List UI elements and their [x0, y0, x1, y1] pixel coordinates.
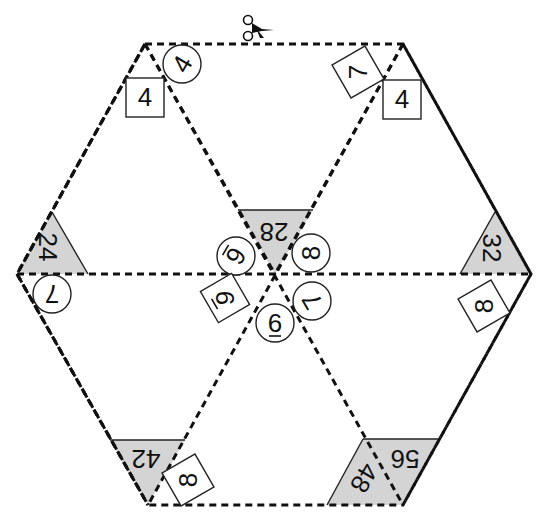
circle-top-left: 4 — [163, 45, 201, 83]
value-24: 24 — [33, 233, 63, 262]
square-top-left: 4 — [126, 78, 164, 117]
square-top-right: 4 — [383, 80, 421, 119]
circle-center-upper-right: 8 — [292, 234, 330, 272]
square-value: 4 — [138, 82, 152, 112]
circle-value: 8 — [296, 246, 326, 260]
square-value: 7 — [343, 65, 373, 79]
value-28: 28 — [260, 217, 289, 247]
circle-left: 7 — [33, 275, 71, 313]
puzzle-canvas: 28 24 32 42 56 48 4 7 6 8 7 6 4 7 4 — [0, 0, 545, 522]
square-center-left: 9 — [200, 273, 249, 322]
value-32: 32 — [477, 234, 507, 263]
value-56: 56 — [391, 444, 420, 474]
value-42: 42 — [132, 444, 161, 474]
square-value: 8 — [469, 299, 499, 313]
circle-center-lower-right: 7 — [293, 282, 331, 320]
square-value: 4 — [395, 84, 409, 114]
circle-value: 7 — [45, 279, 59, 309]
circle-center-upper-left: 6 — [217, 237, 255, 275]
scissors-icon — [244, 16, 275, 41]
circle-value: 6 — [268, 308, 282, 338]
circle-center-bottom: 6 — [256, 304, 294, 342]
square-value: 8 — [173, 473, 203, 487]
